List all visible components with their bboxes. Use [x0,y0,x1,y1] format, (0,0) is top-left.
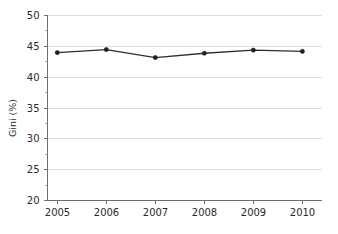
x-tick-label-2009: 2009 [241,207,266,218]
y-tick-label-40: 40 [27,72,40,83]
line-chart: 20253035404550 Gini (%) 2005200620072008… [0,0,338,234]
data-point-2006 [104,47,108,51]
data-point-2009 [251,48,255,52]
x-tick-label-2008: 2008 [192,207,217,218]
y-tick-label-35: 35 [27,103,40,114]
x-tick-label-2010: 2010 [290,207,315,218]
y-tick-label-30: 30 [27,133,40,144]
chart-container: 20253035404550 Gini (%) 2005200620072008… [0,0,338,234]
chart-background [0,0,338,234]
y-tick-label-20: 20 [27,195,40,206]
x-tick-label-2006: 2006 [94,207,119,218]
y-tick-label-25: 25 [27,164,40,175]
y-tick-label-45: 45 [27,41,40,52]
data-point-2007 [153,55,157,59]
x-tick-label-2005: 2005 [45,207,70,218]
data-point-2010 [300,49,304,53]
data-point-2008 [202,51,206,55]
x-tick-label-2007: 2007 [143,207,168,218]
y-axis-title: Gini (%) [7,99,18,137]
data-point-2005 [55,51,59,55]
y-tick-label-50: 50 [27,10,40,21]
